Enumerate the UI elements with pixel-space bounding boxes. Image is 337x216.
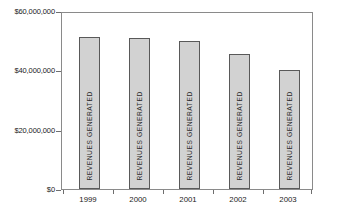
x-tick-mark-0 <box>63 190 64 194</box>
y-tick-label-40000000: $40,000,000 <box>0 67 55 75</box>
x-tick-mark-2 <box>163 190 164 194</box>
y-tick-label-20000000: $20,000,000 <box>0 127 55 135</box>
bar-2000: REVENUES GENERATED <box>129 38 150 189</box>
x-tick-label-2002: 2002 <box>229 195 246 204</box>
x-tick-label-2000: 2000 <box>129 195 146 204</box>
bar-label-1999: REVENUES GENERATED <box>86 92 93 181</box>
x-tick-label-1999: 1999 <box>79 195 96 204</box>
bar-chart: $60,000,000 $40,000,000 $20,000,000 $0 R… <box>0 0 337 216</box>
plot-area: REVENUES GENERATED REVENUES GENERATED RE… <box>62 13 312 189</box>
y-tick-label-0: $0 <box>0 186 55 194</box>
bar-label-2001: REVENUES GENERATED <box>186 92 193 181</box>
x-tick-mark-5 <box>311 190 312 194</box>
bar-2002: REVENUES GENERATED <box>229 54 250 189</box>
x-tick-mark-4 <box>263 190 264 194</box>
x-axis: 1999 2000 2001 2002 2003 <box>61 195 313 209</box>
x-tick-mark-3 <box>213 190 214 194</box>
bar-label-2000: REVENUES GENERATED <box>136 92 143 181</box>
y-tick-label-60000000: $60,000,000 <box>0 8 55 16</box>
bar-label-2002: REVENUES GENERATED <box>236 92 243 181</box>
bar-2001: REVENUES GENERATED <box>179 41 200 189</box>
x-tick-label-2003: 2003 <box>279 195 296 204</box>
plot-frame: REVENUES GENERATED REVENUES GENERATED RE… <box>61 12 313 190</box>
bar-1999: REVENUES GENERATED <box>79 37 100 189</box>
bar-2003: REVENUES GENERATED <box>279 70 300 189</box>
bar-label-2003: REVENUES GENERATED <box>286 92 293 181</box>
x-tick-label-2001: 2001 <box>179 195 196 204</box>
y-axis: $60,000,000 $40,000,000 $20,000,000 $0 <box>0 0 55 216</box>
x-tick-mark-1 <box>113 190 114 194</box>
